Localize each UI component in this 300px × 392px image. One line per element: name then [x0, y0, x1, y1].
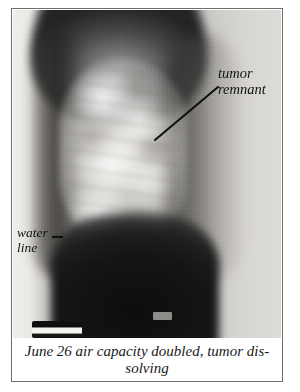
annotation-water-line-line2: line	[17, 241, 48, 256]
figure-caption: June 26 air capacity doubled, tumor dis-…	[13, 340, 281, 380]
figure-caption-line2: solving	[125, 360, 168, 377]
radiograph-figure: tumor remnant water line June 26 air cap…	[0, 0, 300, 392]
annotation-water-line-line1: water	[17, 226, 48, 241]
radiopaque-strip-marker	[32, 321, 82, 338]
annotation-tumor-remnant-line2: remnant	[218, 82, 266, 98]
lower-dark-mass	[51, 206, 219, 338]
radiograph-plate: tumor remnant water line	[13, 10, 281, 338]
figure-caption-line1: June 26 air capacity doubled, tumor dis-	[25, 343, 270, 360]
annotation-tumor-remnant-line1: tumor	[218, 66, 266, 82]
annotation-water-line: water line	[17, 226, 48, 255]
annotation-tumor-remnant: tumor remnant	[218, 66, 266, 97]
chip-marker-icon	[153, 312, 172, 320]
